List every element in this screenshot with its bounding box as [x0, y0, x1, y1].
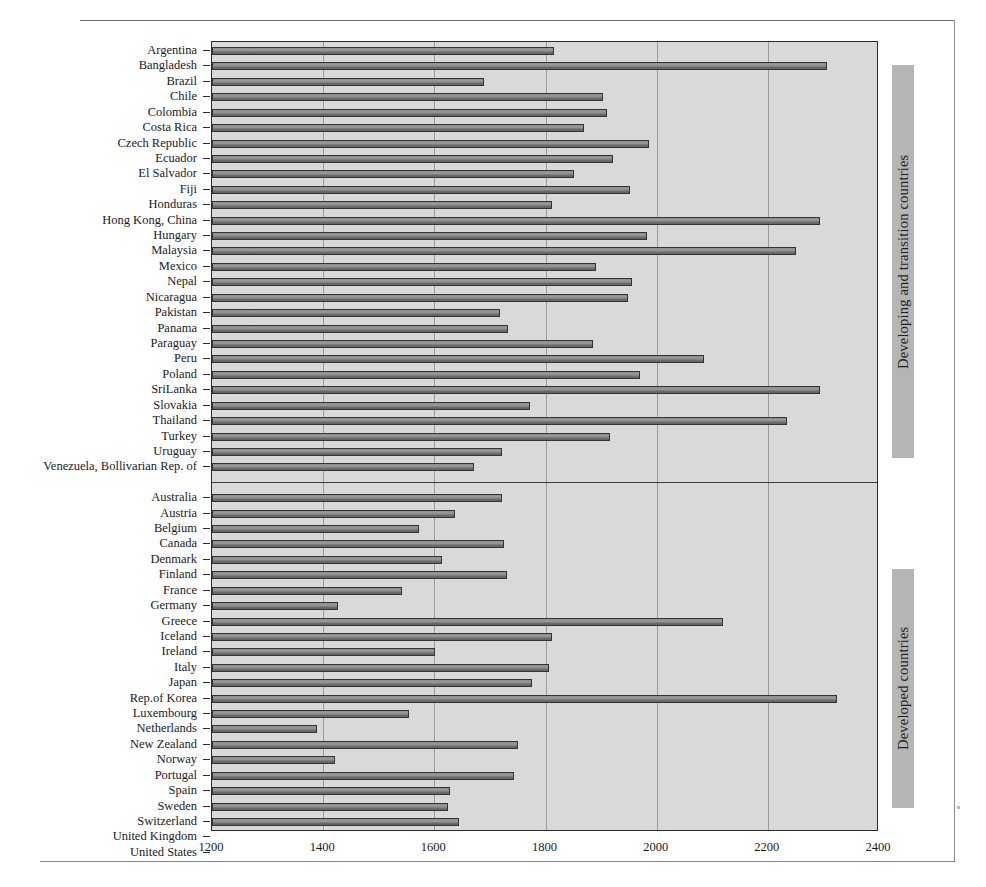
bar — [212, 818, 459, 826]
x-tick-label-1600: 1600 — [421, 840, 446, 855]
bar — [212, 725, 317, 733]
bar — [212, 525, 419, 533]
bar — [212, 741, 518, 749]
bar — [212, 247, 796, 255]
y-axis-label: Thailand — [153, 414, 197, 426]
y-axis-label: Sweden — [157, 800, 197, 812]
x-tick-label-2200: 2200 — [754, 840, 779, 855]
y-axis-tick — [203, 574, 210, 575]
y-axis-tick — [203, 775, 210, 776]
y-axis-tick — [203, 204, 210, 205]
y-axis-label: El Salvador — [138, 167, 197, 179]
y-axis-tick — [203, 759, 210, 760]
y-axis-tick — [203, 328, 210, 329]
y-axis-tick — [203, 343, 210, 344]
y-axis-tick — [203, 173, 210, 174]
bar — [212, 155, 613, 163]
y-axis-label: Canada — [160, 537, 197, 549]
y-axis-label: Mexico — [159, 260, 197, 272]
bar — [212, 618, 723, 626]
y-axis-tick — [203, 158, 210, 159]
y-axis-label: Honduras — [148, 198, 197, 210]
x-tick-label-2000: 2000 — [643, 840, 668, 855]
y-axis-tick — [203, 543, 210, 544]
bar — [212, 602, 338, 610]
y-axis-tick — [203, 266, 210, 267]
y-axis-tick — [203, 96, 210, 97]
bar — [212, 787, 450, 795]
y-axis-label: Austria — [160, 507, 197, 519]
bar — [212, 803, 448, 811]
y-axis-tick — [203, 405, 210, 406]
bar — [212, 340, 593, 348]
y-axis-label: France — [163, 584, 197, 596]
y-axis-label: Luxembourg — [133, 707, 197, 719]
gridline-2000 — [657, 42, 658, 830]
y-axis-tick — [203, 636, 210, 637]
bar — [212, 140, 649, 148]
bar — [212, 571, 507, 579]
y-axis-label: Colombia — [148, 106, 197, 118]
y-axis-label: Finland — [159, 568, 197, 580]
bar — [212, 47, 554, 55]
y-axis-label: Costa Rica — [142, 121, 197, 133]
y-axis-tick — [203, 528, 210, 529]
y-axis-tick — [203, 836, 210, 837]
y-axis-label: Venezuela, Bollivarian Rep. of — [43, 460, 197, 472]
bar — [212, 448, 502, 456]
bar — [212, 78, 484, 86]
y-axis-label: Rep.of Korea — [130, 692, 197, 704]
y-axis-tick — [203, 806, 210, 807]
y-axis-label: Spain — [169, 784, 197, 796]
bar — [212, 679, 532, 687]
bar — [212, 510, 455, 518]
y-axis-tick — [203, 220, 210, 221]
bar — [212, 540, 504, 548]
bar — [212, 371, 640, 379]
x-axis-tick-labels: 1200140016001800200022002400 — [0, 831, 986, 861]
y-axis-tick — [203, 821, 210, 822]
y-axis-label: Ireland — [162, 645, 197, 657]
bar — [212, 109, 607, 117]
y-axis-label: Netherlands — [137, 722, 197, 734]
y-axis-tick — [203, 713, 210, 714]
y-axis-category-labels: ArgentinaBangladeshBrazilChileColombiaCo… — [0, 41, 205, 831]
y-axis-label: Nepal — [167, 275, 197, 287]
y-axis-label: Bangladesh — [139, 59, 197, 71]
y-axis-label: Peru — [174, 352, 197, 364]
y-axis-tick — [203, 852, 210, 853]
legend-developed-countries: Developed countries — [892, 569, 914, 808]
y-axis-tick — [203, 451, 210, 452]
y-axis-tick — [203, 466, 210, 467]
bar — [212, 170, 574, 178]
y-axis-label: Belgium — [154, 522, 197, 534]
y-axis-label: Iceland — [160, 630, 197, 642]
y-axis-label: Greece — [162, 615, 197, 627]
y-axis-label: Hungary — [153, 229, 197, 241]
y-axis-label: Switzerland — [137, 815, 197, 827]
bar — [212, 201, 552, 209]
bar — [212, 232, 647, 240]
y-axis-tick — [203, 436, 210, 437]
bar — [212, 309, 500, 317]
y-axis-tick — [203, 297, 210, 298]
y-axis-label: Hong Kong, China — [102, 214, 197, 226]
y-axis-tick — [203, 312, 210, 313]
horizontal-bar-chart: ArgentinaBangladeshBrazilChileColombiaCo… — [0, 0, 986, 887]
plot-area — [211, 41, 878, 831]
y-axis-label: Czech Republic — [118, 137, 198, 149]
y-axis-tick — [203, 744, 210, 745]
y-axis-tick — [203, 497, 210, 498]
bar — [212, 93, 603, 101]
y-axis-tick — [203, 559, 210, 560]
bar — [212, 633, 552, 641]
y-axis-tick — [203, 621, 210, 622]
y-axis-label: Germany — [150, 599, 197, 611]
y-axis-tick — [203, 682, 210, 683]
y-axis-label: Australia — [151, 491, 197, 503]
bar — [212, 433, 610, 441]
bar — [212, 62, 827, 70]
y-axis-label: SriLanka — [151, 383, 197, 395]
bar — [212, 355, 704, 363]
y-axis-tick — [203, 667, 210, 668]
